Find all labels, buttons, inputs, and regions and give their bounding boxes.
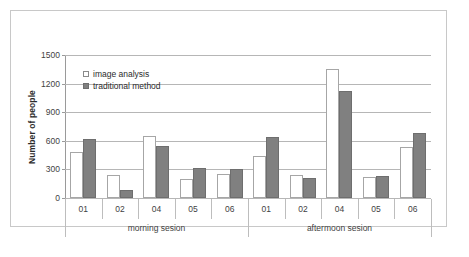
category-label: 01 <box>65 199 102 219</box>
legend-item-label: traditional method <box>93 80 161 92</box>
bar-image-analysis <box>143 136 156 198</box>
y-tick-label-0: 0 <box>55 193 60 203</box>
bar-traditional-method <box>413 133 426 198</box>
category-separator <box>211 199 212 219</box>
bar-traditional-method <box>266 137 279 198</box>
bar-traditional-method <box>230 169 243 198</box>
bar-image-analysis <box>326 69 339 198</box>
group-separator <box>431 219 432 237</box>
group-separator <box>248 219 249 237</box>
y-axis-title-label: Number of people <box>27 90 37 164</box>
y-tick-label-1500: 1500 <box>41 50 60 60</box>
legend-item: traditional method <box>83 80 161 92</box>
y-tick-label-300: 300 <box>46 164 60 174</box>
category-label: 06 <box>394 199 431 219</box>
category-label: 02 <box>102 199 139 219</box>
bar-cluster <box>175 55 212 198</box>
category-separator <box>138 199 139 219</box>
bar-image-analysis <box>70 152 83 198</box>
category-separator <box>248 199 249 219</box>
category-separator <box>102 199 103 219</box>
category-separator <box>175 199 176 219</box>
bar-image-analysis <box>400 147 413 198</box>
bar-traditional-method <box>156 146 169 198</box>
category-axis-level-1: 01020405060102040506 <box>65 199 431 219</box>
bar-cluster <box>358 55 395 198</box>
group-label: aftermoon sesion <box>248 219 431 237</box>
bar-traditional-method <box>83 139 96 198</box>
white-square-outline-icon <box>83 71 89 77</box>
bar-image-analysis <box>180 179 193 198</box>
bar-image-analysis <box>107 175 120 198</box>
y-tick-label-600: 600 <box>46 136 60 146</box>
bar-cluster <box>248 55 285 198</box>
gray-filled-square-icon <box>83 83 89 89</box>
category-axis-level-2: morning sesionaftermoon sesion <box>65 219 431 237</box>
group-label: morning sesion <box>65 219 248 237</box>
bar-image-analysis <box>253 156 266 198</box>
chart-legend: image analysistraditional method <box>83 68 161 92</box>
category-separator <box>65 199 66 219</box>
bar-image-analysis <box>363 177 376 198</box>
category-separator <box>431 199 432 219</box>
y-tick-label-900: 900 <box>46 107 60 117</box>
y-tick-label-1200: 1200 <box>41 79 60 89</box>
bar-image-analysis <box>290 175 303 198</box>
legend-item: image analysis <box>83 68 161 80</box>
category-label: 02 <box>285 199 322 219</box>
group-separator <box>65 219 66 237</box>
bar-image-analysis <box>217 174 230 198</box>
bar-traditional-method <box>193 168 206 198</box>
category-label: 05 <box>175 199 212 219</box>
bar-cluster <box>211 55 248 198</box>
category-label: 04 <box>138 199 175 219</box>
category-label: 05 <box>358 199 395 219</box>
category-separator <box>285 199 286 219</box>
bar-traditional-method <box>120 190 133 198</box>
category-separator <box>394 199 395 219</box>
bar-traditional-method <box>376 176 389 198</box>
category-label: 01 <box>248 199 285 219</box>
chart-frame: Number of people 030060090012001500 imag… <box>10 10 447 227</box>
bar-cluster <box>321 55 358 198</box>
bar-traditional-method <box>339 91 352 198</box>
legend-item-label: image analysis <box>93 68 149 80</box>
category-label: 06 <box>211 199 248 219</box>
category-label: 04 <box>321 199 358 219</box>
bar-cluster <box>285 55 322 198</box>
y-axis-title: Number of people <box>26 55 38 198</box>
bar-traditional-method <box>303 178 316 198</box>
category-separator <box>321 199 322 219</box>
bar-cluster <box>394 55 431 198</box>
category-separator <box>358 199 359 219</box>
